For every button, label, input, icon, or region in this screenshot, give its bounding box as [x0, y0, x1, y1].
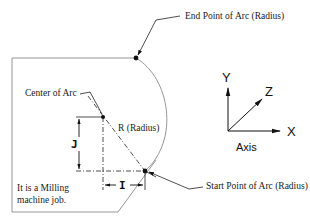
end-point-dot: [134, 56, 139, 61]
z-axis-arrow: [228, 99, 262, 131]
j-dimension: J: [71, 119, 79, 169]
i-label: I: [119, 179, 126, 192]
start-point-leader: [149, 172, 203, 189]
arc-path: [136, 58, 167, 171]
end-point-label: End Point of Arc (Radius): [185, 11, 284, 22]
y-axis-label: Y: [222, 70, 231, 85]
note-line-1: It is a Milling: [17, 183, 69, 193]
j-label: J: [71, 138, 78, 151]
arc-diagram: J I End Point of Arc (Radius) Center of …: [0, 0, 310, 219]
center-leader: [80, 92, 102, 114]
center-point-dot: [101, 115, 105, 119]
z-axis-label: Z: [265, 84, 273, 99]
x-axis-label: X: [287, 124, 296, 139]
end-point-leader: [138, 16, 180, 55]
start-point-label: Start Point of Arc (Radius): [206, 181, 308, 192]
axis-caption: Axis: [236, 141, 257, 153]
radius-label: R (Radius): [118, 123, 159, 134]
center-label: Center of Arc: [25, 88, 77, 98]
radius-line: [88, 96, 145, 171]
note-line-2: machine job.: [17, 195, 66, 205]
start-point-dot: [143, 169, 148, 174]
